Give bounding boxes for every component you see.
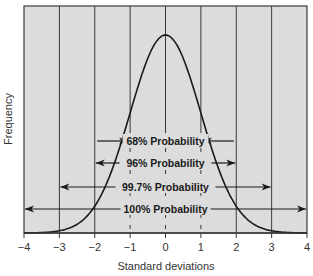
- band-label: 99.7% Probability: [122, 181, 209, 193]
- x-tick-label: −2: [88, 241, 101, 253]
- x-tick-label: 3: [269, 241, 275, 253]
- x-tick-label: 2: [233, 241, 239, 253]
- x-tick-label: 1: [198, 241, 204, 253]
- x-tick-label: −3: [53, 241, 66, 253]
- x-tick-label: −1: [124, 241, 137, 253]
- y-axis-title: Frequency: [2, 93, 14, 145]
- x-tick-label: −4: [18, 241, 31, 253]
- x-axis-ticks: −4−3−2−101234: [18, 233, 310, 253]
- x-tick-label: 4: [304, 241, 310, 253]
- normal-distribution-chart: −4−3−2−101234 68% Probability96% Probabi…: [0, 0, 313, 276]
- plot-area: [24, 6, 307, 233]
- band-label: 96% Probability: [126, 157, 204, 169]
- band-label: 100% Probability: [123, 203, 207, 215]
- x-tick-label: 0: [162, 241, 168, 253]
- x-axis-title: Standard deviations: [117, 260, 215, 272]
- band-label: 68% Probability: [126, 135, 204, 147]
